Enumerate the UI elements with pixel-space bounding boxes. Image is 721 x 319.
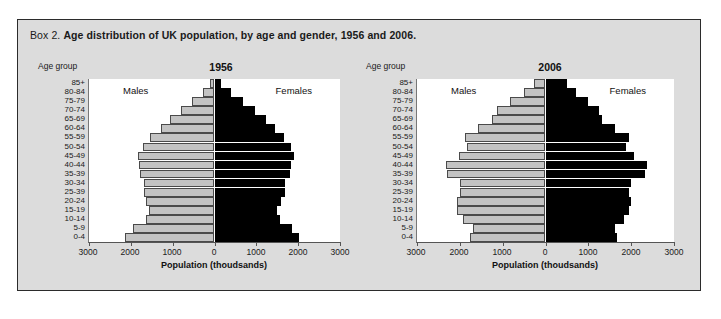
bar-female xyxy=(546,215,624,224)
bar-row: 70-74 xyxy=(89,106,340,115)
bar-female xyxy=(215,188,285,197)
bar-row: 55-59 xyxy=(417,133,674,142)
bar-male xyxy=(150,133,214,142)
bar-male xyxy=(465,133,546,142)
age-group-tick-label: 85+ xyxy=(369,79,413,87)
bar-female xyxy=(546,97,589,106)
x-tick-label: 3000 xyxy=(331,247,350,257)
figure-box: Box 2. Age distribution of UK population… xyxy=(17,19,701,291)
bar-row: 85+ xyxy=(89,79,340,88)
x-tick-label: 0 xyxy=(543,247,548,257)
bar-male xyxy=(492,115,546,124)
age-group-tick-label: 60-64 xyxy=(41,124,85,132)
bar-male xyxy=(463,215,545,224)
bar-female xyxy=(215,233,300,242)
plot-frame-1956: Males Females 0-45-910-1415-1920-2425-39… xyxy=(88,79,340,243)
bar-male xyxy=(192,97,214,106)
bar-row: 75-79 xyxy=(89,97,340,106)
bar-row: 30-34 xyxy=(89,179,340,188)
bar-male xyxy=(146,197,215,206)
bar-female xyxy=(546,197,631,206)
bar-female xyxy=(546,133,629,142)
x-tick-mark xyxy=(674,242,675,246)
bar-rows-2006: 0-45-910-1415-1920-2425-3930-3435-3940-4… xyxy=(417,79,674,242)
bar-female xyxy=(215,88,231,97)
bar-row: 0-4 xyxy=(417,233,674,242)
x-tick-label: 2000 xyxy=(622,247,641,257)
bar-male xyxy=(144,179,214,188)
chart-title-1956: 1956 xyxy=(30,61,360,73)
bar-male xyxy=(146,215,214,224)
bar-row: 55-59 xyxy=(89,133,340,142)
bar-female xyxy=(215,161,292,170)
bar-male xyxy=(161,124,215,133)
bar-row: 40-44 xyxy=(89,161,340,170)
age-group-tick-label: 30-34 xyxy=(41,179,85,187)
bar-female xyxy=(215,179,286,188)
x-tick-label: 3000 xyxy=(665,247,684,257)
x-tick-mark xyxy=(298,242,299,246)
bar-male xyxy=(497,106,545,115)
bar-row: 75-79 xyxy=(417,97,674,106)
age-group-tick-label: 10-14 xyxy=(41,215,85,223)
chart-panel-2006: 2006 Age group Males Females 0-45-910-14… xyxy=(358,61,690,283)
age-group-tick-label: 40-44 xyxy=(41,161,85,169)
bar-row: 25-39 xyxy=(89,188,340,197)
x-tick-mark xyxy=(588,242,589,246)
bar-female xyxy=(215,152,294,161)
age-group-tick-label: 60-64 xyxy=(369,124,413,132)
age-group-tick-label: 5-9 xyxy=(369,224,413,232)
bar-male xyxy=(125,233,214,242)
bar-row: 20-24 xyxy=(89,197,340,206)
age-group-tick-label: 85+ xyxy=(41,79,85,87)
figure-caption: Box 2. Age distribution of UK population… xyxy=(30,29,416,41)
age-group-tick-label: 20-24 xyxy=(369,197,413,205)
x-tick-label: 1000 xyxy=(163,247,182,257)
bar-male xyxy=(133,224,215,233)
bar-row: 65-69 xyxy=(89,115,340,124)
age-group-tick-label: 55-59 xyxy=(41,133,85,141)
x-tick-mark xyxy=(417,242,418,246)
bar-row: 15-19 xyxy=(89,206,340,215)
bar-row: 30-34 xyxy=(417,179,674,188)
bar-female xyxy=(546,106,600,115)
x-tick-label: 1000 xyxy=(247,247,266,257)
bar-female xyxy=(546,161,648,170)
bar-male xyxy=(510,97,546,106)
bar-male xyxy=(170,115,214,124)
age-group-tick-label: 15-19 xyxy=(369,206,413,214)
bar-row: 5-9 xyxy=(89,224,340,233)
age-group-tick-label: 80-84 xyxy=(41,88,85,96)
bar-row: 10-14 xyxy=(417,215,674,224)
age-group-tick-label: 55-59 xyxy=(369,133,413,141)
bar-female xyxy=(215,206,278,215)
age-group-tick-label: 75-79 xyxy=(41,97,85,105)
x-tick-mark xyxy=(215,242,216,246)
age-group-tick-label: 5-9 xyxy=(41,224,85,232)
age-group-tick-label: 30-34 xyxy=(369,179,413,187)
bar-female xyxy=(215,79,222,88)
bar-row: 50-54 xyxy=(89,143,340,152)
bar-male xyxy=(524,88,546,97)
bar-female xyxy=(215,106,255,115)
bar-row: 45-49 xyxy=(89,152,340,161)
x-tick-label: 2000 xyxy=(121,247,140,257)
bar-female xyxy=(215,170,291,179)
bar-row: 10-14 xyxy=(89,215,340,224)
x-tick-label: 1000 xyxy=(579,247,598,257)
bar-female xyxy=(215,143,291,152)
bar-male xyxy=(457,206,545,215)
bar-female xyxy=(546,88,577,97)
bar-male xyxy=(149,206,214,215)
bar-male xyxy=(181,106,214,115)
bar-row: 45-49 xyxy=(417,152,674,161)
age-group-tick-label: 15-19 xyxy=(41,206,85,214)
bar-female xyxy=(215,97,243,106)
age-group-tick-label: 35-39 xyxy=(369,170,413,178)
bar-male xyxy=(446,161,546,170)
bar-row: 80-84 xyxy=(417,88,674,97)
age-group-tick-label: 50-54 xyxy=(369,143,413,151)
x-tick-labels-1956: 3000200010000100020003000 xyxy=(88,247,340,259)
age-group-tick-label: 35-39 xyxy=(41,170,85,178)
age-group-tick-label: 40-44 xyxy=(369,161,413,169)
